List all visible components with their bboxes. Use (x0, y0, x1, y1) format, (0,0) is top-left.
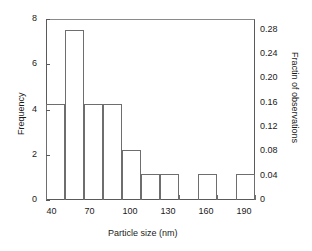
y-tick-label: 4 (32, 104, 37, 114)
y-tick-mark (46, 155, 50, 156)
y-tick-label: 2 (32, 149, 37, 159)
histogram-bar (141, 174, 160, 200)
y-tick-mark (46, 64, 50, 65)
y2-tick-label: 0.16 (260, 97, 278, 107)
y-tick-mark (46, 110, 50, 111)
histogram-bar (84, 104, 103, 200)
x-tick-label: 40 (47, 206, 57, 216)
x-tick-mark (179, 195, 180, 200)
y-tick-mark (46, 200, 50, 201)
y2-tick-label: 0.28 (260, 24, 278, 34)
x-tick-mark (198, 195, 199, 200)
histogram-bar (46, 104, 65, 200)
x-tick-mark (65, 195, 66, 200)
histogram-bar (103, 104, 122, 200)
y-tick-mark (46, 19, 50, 20)
y-tick-label: 6 (32, 58, 37, 68)
x-tick-mark (141, 195, 142, 200)
histogram-bar (236, 174, 255, 200)
x-tick-label: 100 (123, 206, 138, 216)
y2-tick-label: 0 (260, 194, 265, 204)
x-tick-mark (255, 195, 256, 200)
x-tick-mark (122, 195, 123, 200)
x-tick-label: 160 (199, 206, 214, 216)
y-tick-label: 0 (32, 194, 37, 204)
x-tick-mark (160, 195, 161, 200)
x-tick-mark (236, 195, 237, 200)
histogram-bar (160, 174, 179, 200)
x-tick-mark (84, 195, 85, 200)
histogram-bar (122, 150, 141, 200)
y2-tick-label: 0.04 (260, 170, 278, 180)
x-tick-label: 70 (85, 206, 95, 216)
y2-tick-label: 0.24 (260, 48, 278, 58)
x-tick-mark (103, 195, 104, 200)
x-tick-label: 130 (161, 206, 176, 216)
x-axis-label: Particle size (nm) (108, 228, 178, 238)
y2-tick-label: 0.12 (260, 121, 278, 131)
y-tick-label: 8 (32, 13, 37, 23)
histogram-bar (198, 174, 217, 200)
histogram-bar (65, 30, 84, 200)
y2-tick-label: 0.20 (260, 72, 278, 82)
y2-axis-label: Fractin of observations (290, 52, 300, 143)
y-axis-label: Frequency (16, 92, 26, 135)
y2-tick-label: 0.08 (260, 145, 278, 155)
x-tick-mark (217, 195, 218, 200)
x-tick-label: 190 (237, 206, 252, 216)
histogram-figure: 4070100130160190 02468 00.040.080.120.16… (0, 0, 312, 251)
